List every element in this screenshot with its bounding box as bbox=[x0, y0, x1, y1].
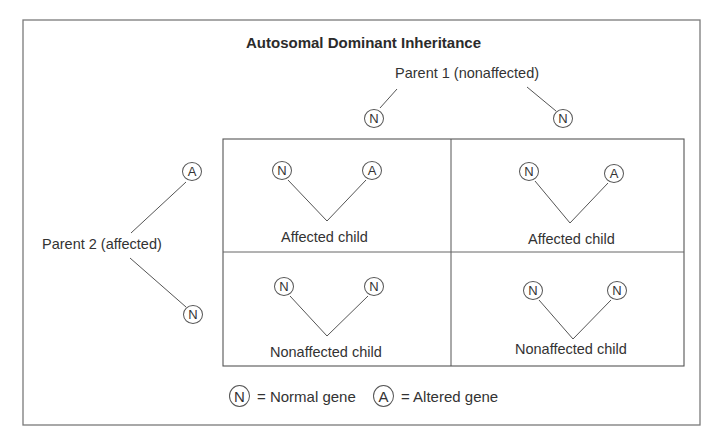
cell-gene-2: N bbox=[607, 281, 627, 300]
parent2-gene-1: A bbox=[182, 162, 202, 181]
cell-gene-2: A bbox=[362, 161, 382, 180]
cell-gene-1: N bbox=[274, 277, 294, 296]
parent2-gene-2: N bbox=[183, 305, 203, 324]
parent1-gene-1: N bbox=[364, 109, 384, 128]
cell-label: Nonaffected child bbox=[270, 345, 382, 360]
parent2-upper-connector bbox=[131, 182, 186, 233]
cell-gene-1: N bbox=[519, 162, 539, 181]
diagram-title: Autosomal Dominant Inheritance bbox=[246, 35, 481, 50]
cell-top-left-connector bbox=[288, 180, 366, 221]
diagram: Autosomal Dominant Inheritance Parent 1 … bbox=[0, 0, 721, 447]
legend-altered-gene-text: = Altered gene bbox=[401, 389, 498, 404]
legend-altered-gene-icon: A bbox=[373, 385, 394, 407]
cell-gene-2: A bbox=[604, 164, 624, 183]
legend-normal-gene-text: = Normal gene bbox=[257, 389, 356, 404]
cell-gene-2: N bbox=[364, 277, 384, 296]
diagram-lines bbox=[0, 0, 721, 447]
cell-label: Nonaffected child bbox=[515, 342, 627, 357]
cell-top-right-connector bbox=[535, 181, 608, 223]
outer-frame bbox=[23, 20, 700, 425]
parent1-right-connector bbox=[527, 87, 556, 111]
cell-gene-1: N bbox=[272, 161, 292, 180]
cell-gene-1: N bbox=[523, 281, 543, 300]
parent1-label: Parent 1 (nonaffected) bbox=[395, 66, 539, 81]
parent2-lower-connector bbox=[130, 258, 186, 307]
cell-bottom-left-connector bbox=[290, 296, 368, 336]
parent1-gene-2: N bbox=[553, 109, 573, 128]
parent2-label: Parent 2 (affected) bbox=[42, 237, 162, 252]
parent1-left-connector bbox=[380, 89, 397, 108]
cell-label: Affected child bbox=[281, 230, 368, 245]
legend-normal-gene-icon: N bbox=[229, 385, 250, 407]
cell-label: Affected child bbox=[528, 232, 615, 247]
cell-bottom-right-connector bbox=[539, 300, 611, 339]
